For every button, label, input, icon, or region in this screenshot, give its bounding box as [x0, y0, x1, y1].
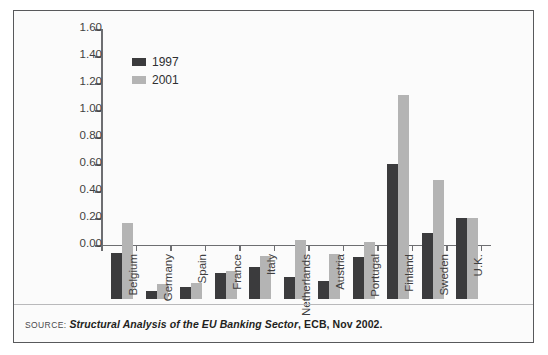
x-axis-tick	[239, 246, 241, 251]
source-text: SOURCE: Structural Analysis of the EU Ba…	[25, 318, 383, 330]
bar-1997[interactable]	[111, 253, 122, 299]
y-axis-tick-label: 0.40	[56, 183, 102, 195]
x-axis-label-sweden: Sweden	[438, 254, 450, 296]
x-axis-tick	[170, 246, 172, 251]
legend-swatch-1997	[132, 58, 146, 66]
source-rest: , ECB, Nov 2002.	[298, 318, 382, 330]
x-axis-label-belgium: Belgium	[127, 254, 139, 296]
y-axis-tick-label: 0.20	[56, 210, 102, 222]
x-axis-tick	[481, 246, 483, 251]
y-axis-tick-label: 1.40	[56, 48, 102, 60]
bar-1997[interactable]	[284, 277, 295, 299]
bar-1997[interactable]	[456, 218, 467, 299]
chart-plot-area: 0.000.200.400.600.801.001.201.401.60 Bel…	[14, 11, 533, 299]
x-axis-label-finland: Finland	[403, 254, 415, 292]
bar-1997[interactable]	[318, 281, 329, 299]
x-axis-label-germany: Germany	[162, 254, 174, 301]
y-axis-tick-label: 1.60	[56, 21, 102, 33]
chart-legend: 1997 2001	[132, 54, 179, 90]
x-axis-tick	[205, 246, 207, 251]
figure-frame: 0.000.200.400.600.801.001.201.401.60 Bel…	[13, 10, 534, 343]
legend-label-2001: 2001	[152, 73, 179, 87]
x-axis-tick	[101, 246, 103, 251]
bar-1997[interactable]	[422, 233, 433, 299]
y-axis-tick-label: 0.00	[56, 237, 102, 249]
bar-1997[interactable]	[215, 273, 226, 299]
bar-1997[interactable]	[146, 291, 157, 299]
x-axis-tick	[446, 246, 448, 251]
x-axis-label-uk: U.K.	[472, 254, 484, 276]
y-axis-tick-label: 1.00	[56, 102, 102, 114]
x-axis-tick	[412, 246, 414, 251]
legend-item-1997: 1997	[132, 54, 179, 70]
x-axis-tick	[136, 246, 138, 251]
source-keyword: SOURCE:	[25, 320, 67, 330]
x-axis-label-austria: Austria	[334, 254, 346, 290]
legend-label-1997: 1997	[152, 55, 179, 69]
bar-1997[interactable]	[387, 164, 398, 299]
bar-1997[interactable]	[249, 267, 260, 299]
y-axis-tick-label: 0.80	[56, 129, 102, 141]
bar-1997[interactable]	[353, 257, 364, 299]
x-axis-tick	[377, 246, 379, 251]
x-axis-label-france: France	[231, 254, 243, 290]
y-axis-tick-label: 1.20	[56, 75, 102, 87]
y-axis-tick-label: 0.60	[56, 156, 102, 168]
x-axis-tick	[274, 246, 276, 251]
legend-item-2001: 2001	[132, 72, 179, 88]
x-axis-label-spain: Spain	[196, 254, 208, 283]
x-axis-label-portugal: Portugal	[369, 254, 381, 297]
x-axis-label-italy: Italy	[265, 254, 277, 275]
source-footer: SOURCE: Structural Analysis of the EU Ba…	[14, 305, 533, 342]
source-title: Structural Analysis of the EU Banking Se…	[69, 318, 298, 330]
x-axis-tick	[343, 246, 345, 251]
x-axis-tick	[308, 246, 310, 251]
legend-swatch-2001	[132, 76, 146, 84]
bar-2001[interactable]	[191, 283, 202, 299]
bar-1997[interactable]	[180, 287, 191, 299]
